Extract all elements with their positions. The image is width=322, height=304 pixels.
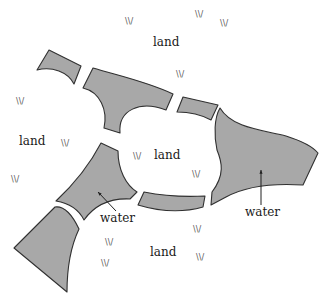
grass-icon: \\/ [61,139,69,148]
land-label: land [150,245,177,259]
grass-icon: \\/ [220,19,228,28]
water-region-right-large [211,108,318,205]
water-region-left-center [56,143,137,220]
wetland-diagram: \\/\\/\\/\\/\\/\\/\\/\\/\\/\\/\\/\\/\\/l… [0,0,322,304]
land-label: land [154,148,181,162]
land-label: land [19,134,46,148]
grass-icon: \\/ [196,253,204,262]
grass-icon: \\/ [16,97,24,106]
land-label: land [153,35,180,49]
diagram-canvas: \\/\\/\\/\\/\\/\\/\\/\\/\\/\\/\\/\\/\\/l… [0,0,322,304]
water-region-bottom-middle [138,192,205,211]
water-region-bottom-left [14,207,79,292]
grass-icon: \\/ [105,238,113,247]
grass-icon: \\/ [133,152,141,161]
grass-icon: \\/ [11,175,19,184]
grass-icon: \\/ [176,70,184,79]
grass-icon: \\/ [192,170,200,179]
water-region-top-arch [83,68,173,133]
water-label: water [245,205,280,219]
grass-icon: \\/ [125,17,133,26]
water-label: water [100,211,135,225]
grass-icon: \\/ [101,259,109,268]
water-region-top-left-small [37,50,81,84]
water-region-top-right-small [177,97,218,120]
grass-icon: \\/ [195,10,203,19]
grass-icon: \\/ [193,225,201,234]
